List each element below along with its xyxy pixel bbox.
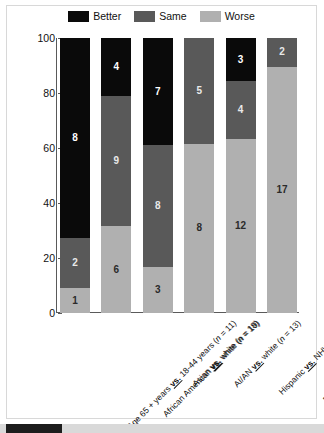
bar-segment-value: 8 (196, 223, 202, 233)
bar-segment-worse[interactable]: 6 (101, 226, 131, 313)
legend-swatch-better (68, 11, 89, 22)
bar-segment-better[interactable]: 3 (226, 38, 256, 81)
bar-segment-value: 3 (238, 55, 244, 65)
horizontal-scrollbar-track[interactable] (0, 424, 324, 433)
bar-segment-same[interactable]: 4 (226, 81, 256, 139)
y-tick-label-60: 60 (43, 143, 55, 154)
y-tick-60: 60 (14, 148, 62, 149)
legend-label-worse: Worse (225, 11, 255, 22)
y-tick-label-40: 40 (43, 198, 55, 209)
y-tick-label-100: 100 (37, 33, 55, 44)
bar-column[interactable]: 496 (101, 38, 131, 313)
bar-segment-value: 8 (72, 133, 78, 143)
y-axis-line (56, 38, 57, 313)
bar-segment-worse[interactable]: 12 (226, 139, 256, 313)
figure-frame: Better Same Worse 100 80 60 40 (6, 5, 317, 419)
bar-segment-value: 6 (114, 265, 120, 275)
bar-segment-value: 2 (72, 258, 78, 268)
bar-column[interactable]: 783 (143, 38, 173, 313)
bar-column[interactable]: 217 (267, 38, 297, 313)
bar-segment-same[interactable]: 2 (267, 38, 297, 67)
y-tick-40: 40 (14, 203, 62, 204)
bar-segment-worse[interactable]: 8 (184, 144, 214, 313)
y-tick-0: 0 (14, 313, 62, 314)
bar-segment-value: 7 (155, 87, 161, 97)
legend-swatch-worse (200, 11, 221, 22)
legend-swatch-same (134, 11, 155, 22)
y-tick-100: 100 (14, 38, 62, 39)
legend-entry-better: Better (68, 11, 121, 22)
bar-segment-worse[interactable]: 3 (143, 267, 173, 313)
chart-legend: Better Same Worse (7, 11, 316, 22)
y-tick-20: 20 (14, 258, 62, 259)
bar-segment-value: 3 (155, 285, 161, 295)
stacked-bars-container: 821496783583412217 (60, 38, 297, 313)
bar-segment-better[interactable]: 8 (60, 38, 90, 238)
legend-entry-same: Same (134, 11, 186, 22)
horizontal-scrollbar-thumb[interactable] (6, 424, 62, 433)
bar-segment-same[interactable]: 2 (60, 238, 90, 288)
bar-segment-same[interactable]: 9 (101, 96, 131, 226)
y-tick-label-20: 20 (43, 253, 55, 264)
bar-segment-value: 9 (114, 156, 120, 166)
bar-segment-worse[interactable]: 17 (267, 67, 297, 313)
bar-segment-same[interactable]: 5 (184, 38, 214, 144)
bar-column[interactable]: 821 (60, 38, 90, 313)
bar-segment-better[interactable]: 7 (143, 38, 173, 145)
bar-segment-same[interactable]: 8 (143, 145, 173, 267)
bar-segment-value: 5 (196, 86, 202, 96)
bar-segment-worse[interactable]: 1 (60, 288, 90, 313)
bar-column[interactable]: 58 (184, 38, 214, 313)
bar-segment-value: 17 (276, 185, 287, 195)
y-tick-80: 80 (14, 93, 62, 94)
bar-segment-value: 8 (155, 201, 161, 211)
y-tick-label-0: 0 (49, 308, 55, 319)
legend-label-same: Same (159, 11, 186, 22)
bar-segment-value: 4 (114, 62, 120, 72)
bar-segment-value: 1 (72, 296, 78, 306)
bar-segment-value: 4 (238, 105, 244, 115)
legend-entry-worse: Worse (200, 11, 255, 22)
bar-segment-value: 2 (279, 47, 285, 57)
plot-area: 100 80 60 40 20 0 821496783583412217 (56, 38, 299, 313)
bar-segment-value: 12 (235, 221, 246, 231)
bar-column[interactable]: 3412 (226, 38, 256, 313)
legend-label-better: Better (93, 11, 121, 22)
bar-segment-better[interactable]: 4 (101, 38, 131, 96)
y-tick-label-80: 80 (43, 88, 55, 99)
category-label: Age 65 + years vs. 18-44 years (n = 11) (125, 318, 238, 431)
category-axis-labels: Age 65 + years vs. 18-44 years (n = 11)A… (56, 314, 299, 414)
